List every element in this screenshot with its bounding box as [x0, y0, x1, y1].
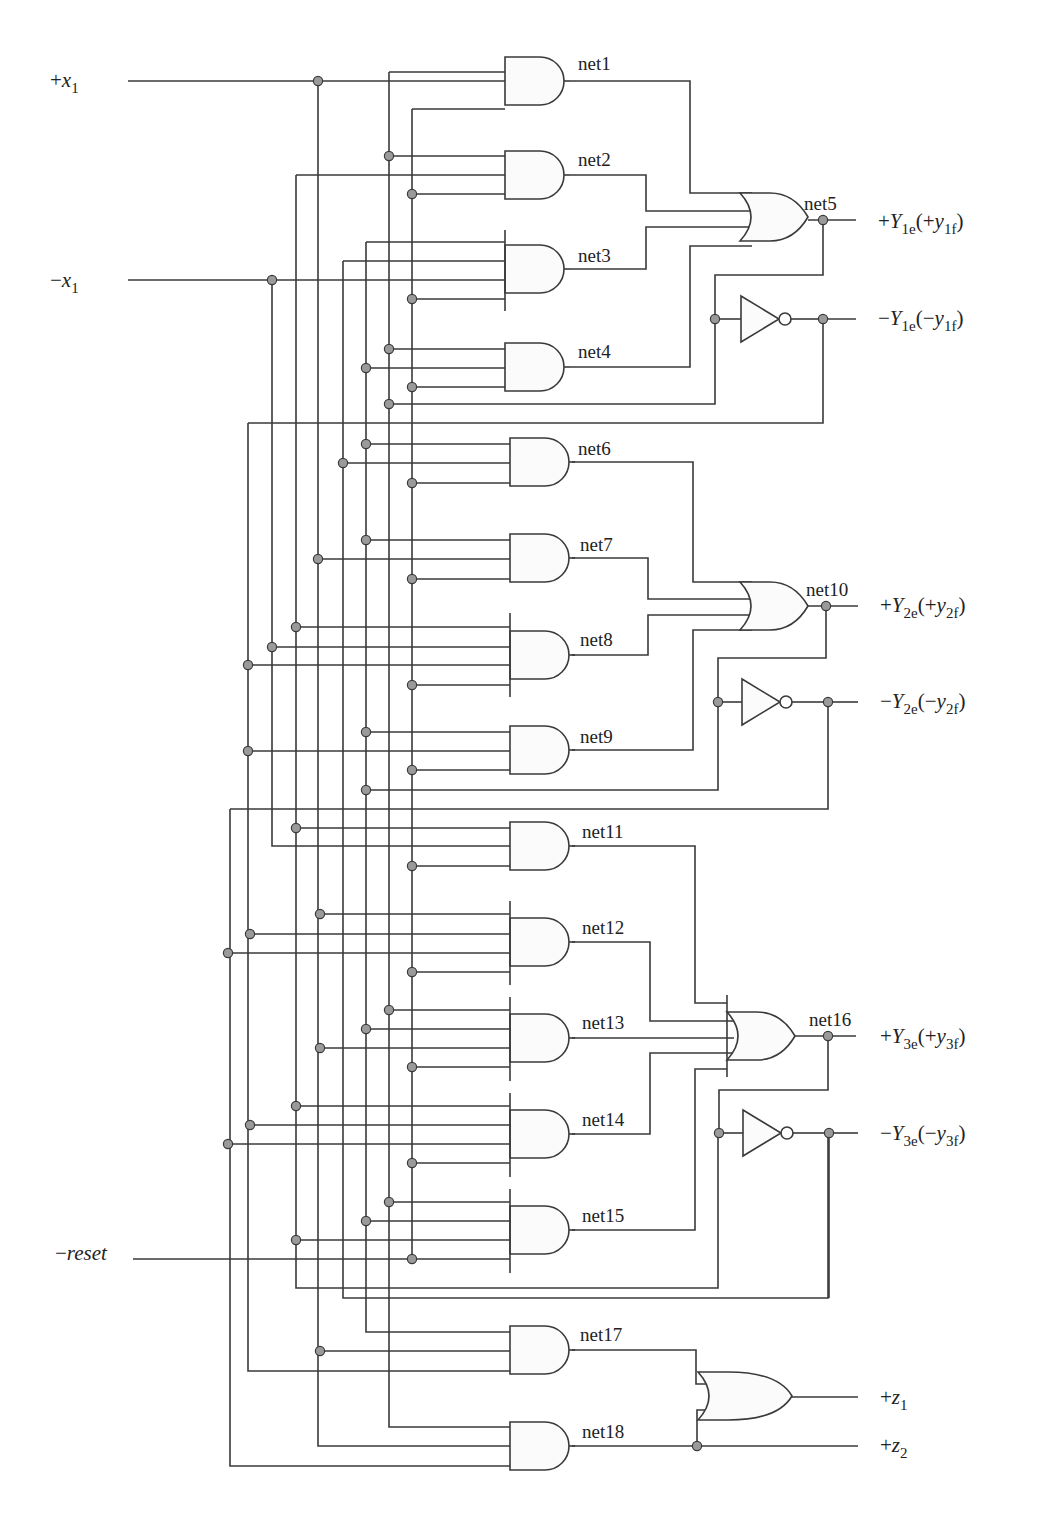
junction-dot — [818, 215, 827, 224]
output-label-plus-Y3e: +Y3e(+y3f) — [880, 1024, 965, 1052]
net-label: net6 — [578, 438, 611, 459]
gates — [505, 57, 825, 1470]
wires — [128, 72, 858, 1466]
or-gate-net5 — [740, 193, 808, 241]
output-label-minus-Y1e: −Y1e(−y1f) — [878, 306, 963, 334]
and-gate-net13 — [510, 997, 575, 1081]
net-label: net17 — [580, 1324, 622, 1345]
junction-dot — [823, 1031, 832, 1040]
net-label: net15 — [582, 1205, 624, 1226]
junction-dot — [267, 642, 276, 651]
output-label-plus-Y2e: +Y2e(+y2f) — [880, 593, 965, 621]
input-label-minus-x1: −x1 — [50, 268, 79, 296]
junction-dot — [361, 535, 370, 544]
inverter-inv3 — [743, 1110, 825, 1156]
junction-dot — [245, 1120, 254, 1129]
junction-dot — [384, 399, 393, 408]
output-label-plus-z2: +z2 — [880, 1433, 908, 1461]
junction-dot — [407, 861, 416, 870]
junction-dot — [291, 622, 300, 631]
net-label: net11 — [582, 821, 624, 842]
junction-dot — [407, 294, 416, 303]
and-gate-net14 — [510, 1093, 575, 1177]
net-label: net10 — [806, 579, 848, 600]
input-label-plus-x1: +x1 — [50, 68, 79, 96]
net-label: net12 — [582, 917, 624, 938]
and-gate-net6 — [510, 438, 575, 486]
and-gate-net9 — [510, 726, 575, 774]
and-gate-net2 — [505, 151, 570, 199]
junction-dot — [315, 909, 324, 918]
net-label: net3 — [578, 245, 611, 266]
junction-dot — [361, 785, 370, 794]
junction-dot — [407, 680, 416, 689]
junction-dot — [361, 1216, 370, 1225]
and-gate-net8 — [510, 613, 575, 697]
net-label: net13 — [582, 1012, 624, 1033]
or-gate-net10 — [740, 582, 808, 630]
and-gate-net15 — [510, 1189, 575, 1273]
junction-dot — [407, 1062, 416, 1071]
net-label: net9 — [580, 726, 613, 747]
junction-dot — [407, 189, 416, 198]
and-gate-net17 — [510, 1326, 575, 1374]
junction-dot — [291, 1235, 300, 1244]
junction-dot — [223, 948, 232, 957]
and-gate-net12 — [510, 901, 575, 985]
input-label-minus-reset: −reset — [55, 1241, 108, 1265]
junction-dot — [313, 76, 322, 85]
junction-dot — [361, 727, 370, 736]
inverter-inv1 — [741, 296, 823, 342]
net-label: net18 — [582, 1421, 624, 1442]
junction-dot — [407, 574, 416, 583]
output-label-minus-Y2e: −Y2e(−y2f) — [880, 689, 965, 717]
junction-dot — [692, 1441, 701, 1450]
junction-dot — [315, 1043, 324, 1052]
junction-dot — [824, 1128, 833, 1137]
output-label-minus-Y3e: −Y3e(−y3f) — [880, 1121, 965, 1149]
junction-dot — [338, 458, 347, 467]
junction-dot — [267, 275, 276, 284]
net-label: net14 — [582, 1109, 625, 1130]
junction-dot — [223, 1139, 232, 1148]
logic-diagram: net1net2net3net4net6net7net8net9net11net… — [0, 0, 1038, 1530]
junction-dot — [313, 554, 322, 563]
and-gate-net11 — [510, 822, 575, 870]
junction-dot — [243, 660, 252, 669]
and-gate-net18 — [510, 1422, 575, 1470]
junction-dot — [315, 1346, 324, 1355]
junction-dot — [384, 151, 393, 160]
net-label: net16 — [809, 1009, 851, 1030]
junction-dot — [821, 601, 830, 610]
output-label-plus-Y1e: +Y1e(+y1f) — [878, 209, 963, 237]
and-gate-net1 — [505, 57, 570, 105]
net-label: net5 — [804, 193, 837, 214]
junction-dot — [407, 765, 416, 774]
junction-dot — [407, 967, 416, 976]
junction-dot — [291, 1101, 300, 1110]
and-gate-net3 — [505, 230, 570, 311]
or-gate-z1-or — [698, 1372, 792, 1420]
junction-dot — [243, 746, 252, 755]
junction-dot — [713, 697, 722, 706]
and-gate-net4 — [505, 343, 570, 391]
net-label: net2 — [578, 149, 611, 170]
junction-dot — [384, 1005, 393, 1014]
junction-dot — [361, 363, 370, 372]
and-gate-net7 — [510, 534, 575, 582]
junction-dot — [384, 344, 393, 353]
net-label: net1 — [578, 53, 611, 74]
or-gate-net16 — [727, 1012, 795, 1060]
junction-dot — [823, 697, 832, 706]
junction-dot — [245, 929, 254, 938]
junction-dot — [361, 439, 370, 448]
net-label: net4 — [578, 341, 611, 362]
inverter-inv2 — [742, 679, 824, 725]
junction-dot — [361, 1024, 370, 1033]
junction-dot — [818, 314, 827, 323]
junction-dot — [407, 382, 416, 391]
junction-dot — [291, 823, 300, 832]
junction-dot — [710, 314, 719, 323]
junction-dot — [407, 1158, 416, 1167]
junction-dot — [384, 1197, 393, 1206]
